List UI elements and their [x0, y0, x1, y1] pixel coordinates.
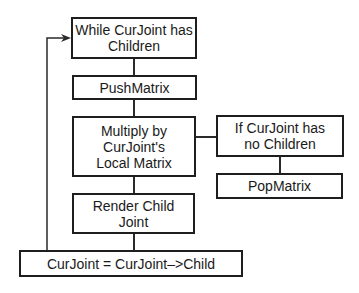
node-label: Multiply by CurJoint's Local Matrix — [88, 123, 180, 171]
node-label: If CurJoint has no Children — [226, 120, 334, 152]
node-while-has-children: While CurJoint has Children — [71, 17, 197, 59]
node-label: Render Child Joint — [90, 198, 177, 230]
node-advance-to-child: CurJoint = CurJoint–>Child — [19, 250, 243, 277]
node-label: PushMatrix — [99, 80, 169, 96]
node-pop-matrix: PopMatrix — [216, 173, 343, 199]
node-label: PopMatrix — [248, 178, 311, 194]
node-multiply-local-matrix: Multiply by CurJoint's Local Matrix — [72, 116, 196, 177]
node-label: While CurJoint has Children — [73, 22, 195, 54]
node-if-no-children: If CurJoint has no Children — [216, 115, 344, 157]
node-label: CurJoint = CurJoint–>Child — [47, 256, 215, 272]
node-render-child-joint: Render Child Joint — [72, 193, 195, 234]
node-push-matrix: PushMatrix — [72, 75, 197, 100]
